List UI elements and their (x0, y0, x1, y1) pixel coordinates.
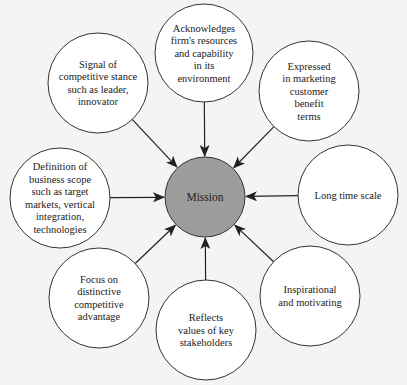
mission-diagram: Acknowledgesfirm's resourcesand capabili… (0, 0, 407, 385)
node-text-line: terms (297, 111, 320, 122)
node-text-line: customer (290, 86, 329, 97)
arrow-bottom-left-to-mission (135, 225, 175, 263)
arrow-right-to-mission (246, 196, 298, 197)
node-text-line: stakeholders (180, 337, 233, 348)
node-text-line: Long time scale (314, 190, 381, 201)
node-left: Definition ofbusiness scopesuch as targe… (10, 148, 110, 248)
node-text-line: and motivating (278, 297, 342, 308)
node-text-line: Reflects (189, 312, 223, 323)
node-text-line: technologies (33, 224, 86, 235)
node-text-line: markets, vertical (25, 199, 95, 210)
node-bottom-right: Inspirationaland motivating (260, 246, 360, 346)
node-top-right: Expressedin marketingcustomerbenefitterm… (259, 41, 359, 141)
center-node-mission: Mission (165, 157, 245, 237)
node-text-line: firm's resources (171, 35, 237, 46)
node-text-line: such as leader, (67, 84, 128, 95)
node-text-line: and capability (174, 48, 234, 59)
arrow-top-right-to-mission (234, 127, 274, 168)
mission-label: Mission (186, 191, 223, 203)
node-text-line: Signal of (79, 59, 118, 70)
node-text-line: benefit (294, 98, 323, 109)
node-right: Long time scale (298, 145, 398, 245)
node-text-line: innovator (78, 96, 119, 107)
node-text-line: environment (177, 73, 230, 84)
arrow-bottom-right-to-mission (235, 225, 274, 262)
node-text-line: business scope (29, 174, 91, 185)
node-text-line: in its (194, 60, 215, 71)
arrow-top-left-to-mission (132, 119, 177, 167)
node-bottom: Reflectsvalues of keystakeholders (156, 280, 256, 380)
node-top: Acknowledgesfirm's resourcesand capabili… (155, 4, 253, 102)
node-text-line: competitive stance (59, 71, 138, 82)
node-text-line: integration, (36, 211, 84, 222)
node-text-line: competitive (74, 299, 124, 310)
node-bottom-left: Focus ondistinctivecompetitiveadvantage (49, 248, 149, 348)
node-text-line: in marketing (282, 73, 336, 84)
node-text-line: Acknowledges (173, 23, 235, 34)
node-text-line: Definition of (33, 161, 88, 172)
node-text-line: advantage (78, 311, 121, 322)
node-text-line: Expressed (287, 61, 331, 72)
node-text-line: Inspirational (283, 284, 336, 295)
node-text-line: such as target (32, 186, 89, 197)
node-text-line: values of key (178, 325, 235, 336)
node-text-line: distinctive (77, 286, 121, 297)
node-top-left: Signal ofcompetitive stancesuch as leade… (48, 33, 148, 133)
node-text-line: Focus on (80, 274, 119, 285)
